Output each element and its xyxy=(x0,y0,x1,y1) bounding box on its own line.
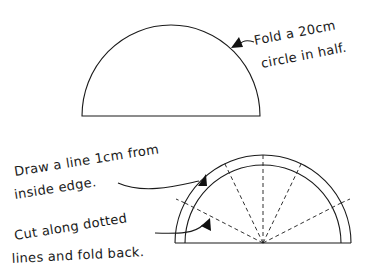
step2-arrow xyxy=(118,174,207,189)
arrowhead-icon xyxy=(231,37,243,48)
folded-semicircle xyxy=(82,25,260,116)
cut-lines xyxy=(176,155,350,243)
step3-label-line2: lines and fold back. xyxy=(11,244,144,266)
arrowhead-icon xyxy=(201,218,211,231)
diagram-canvas: Fold a 20cm circle in half. Draw a line … xyxy=(0,0,374,279)
step2-label-line1: Draw a line 1cm from xyxy=(13,141,160,179)
step2-label-line2: inside edge. xyxy=(13,174,97,202)
step3-arrow xyxy=(155,218,211,233)
step3-label-line1: Cut along dotted xyxy=(13,210,128,243)
step1-arrow xyxy=(231,37,254,48)
arrowhead-icon xyxy=(198,174,207,186)
